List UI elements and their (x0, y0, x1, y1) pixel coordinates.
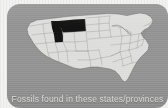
us-map-svg[interactable] (15, 6, 163, 92)
highlighted-state-montana[interactable] (58, 19, 86, 33)
us-map-container[interactable] (15, 6, 163, 92)
map-caption: Fossils found in these states/provinces (7, 94, 168, 105)
screenshot-root: Fossils found in these states/provinces (0, 0, 168, 108)
fossil-map-card[interactable]: Fossils found in these states/provinces (7, 4, 168, 108)
